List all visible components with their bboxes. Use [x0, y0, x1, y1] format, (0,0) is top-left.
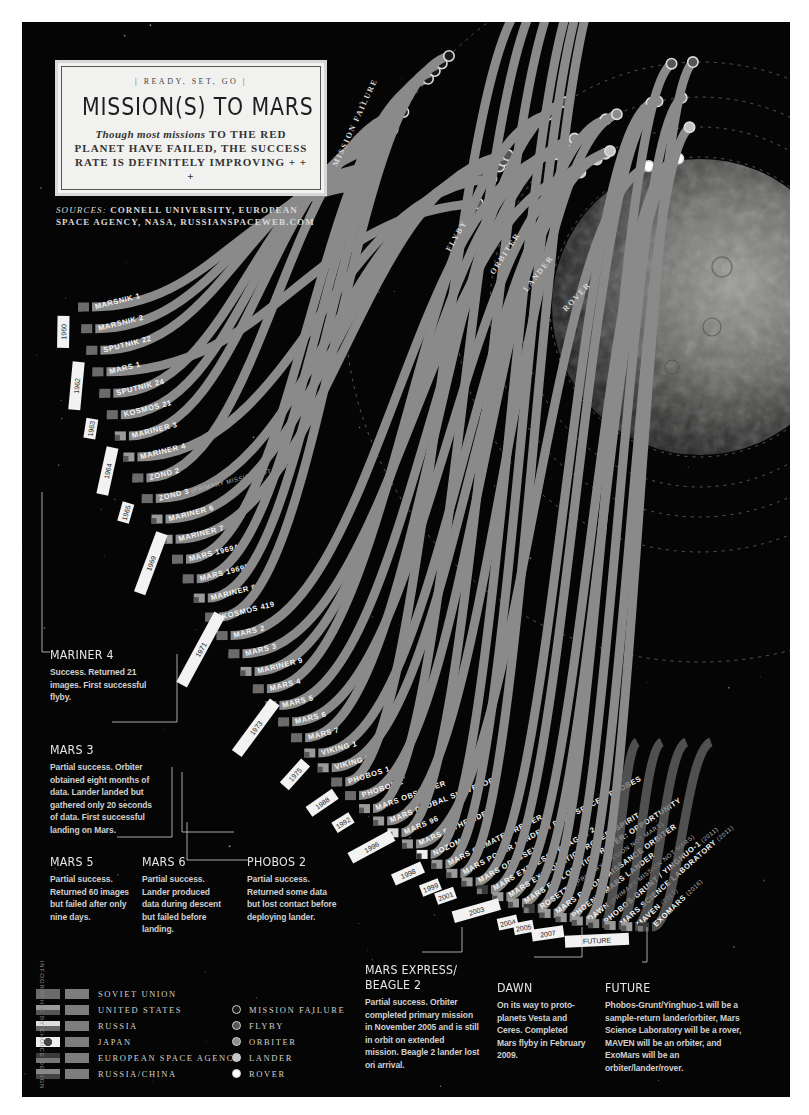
agency-flag-soviet [183, 574, 194, 583]
note-future: FUTUREPhobos-Grunt/Yinghuo-1 will be a s… [605, 980, 755, 1074]
agency-flag-soviet [92, 367, 103, 376]
year-tab: 2003 [452, 898, 501, 923]
agency-flag-us [556, 913, 567, 922]
band-swatch [65, 1037, 89, 1047]
subtitle: Though most missions TO THE RED PLANET H… [72, 127, 310, 183]
outcome-dot-flyby [688, 57, 698, 67]
year-tab: 1971 [176, 612, 225, 688]
mission-label: SPUTNIK 24 [115, 377, 165, 398]
legend-agency-soviet: SOVIET UNION [36, 986, 242, 1001]
note-mars-5: MARS 5Partial success. Returned 60 image… [50, 854, 130, 923]
agency-flag-esa [477, 885, 488, 894]
legend-agency-esa: EUROPEAN SPACE AGENCY [36, 1050, 242, 1065]
infographic-canvas: MARSNIK 1MARSNIK 2SPUTNIK 22MARS 1SPUTNI… [22, 22, 790, 1097]
agency-flag-soviet [331, 777, 342, 786]
svg-text:FUTURE: FUTURE [583, 936, 612, 944]
legend-agency-russia: RUSSIA [36, 1018, 242, 1033]
outcome-dot-icon [232, 1069, 241, 1078]
svg-text:1962: 1962 [73, 378, 81, 394]
agency-flag-us [123, 452, 134, 461]
agency-flag-soviet [107, 410, 118, 419]
agency-flag-us [462, 877, 473, 886]
agency-flag-soviet [228, 649, 239, 658]
agency-flag-us [152, 515, 163, 524]
agency-flag-us [540, 909, 551, 918]
band-swatch [65, 1021, 89, 1031]
note-mariner-4: MARINER 4Success. Returned 21 images. Fi… [50, 647, 150, 704]
agency-flag-us [373, 817, 384, 826]
outcome-dot-orbiter [612, 109, 622, 119]
year-tab: FUTURE [565, 933, 629, 948]
mission-label: MARS 6 [294, 710, 327, 726]
note-mars-3: MARS 3Partial success. Orbiter obtained … [50, 742, 155, 836]
agency-flag-us [304, 748, 315, 757]
agency-flag-us [115, 431, 126, 440]
mission-label: MARS 4 [269, 676, 302, 693]
agency-flag-us [318, 763, 329, 772]
agency-flag-soviet [78, 303, 89, 312]
outcome-dot-icon [232, 1053, 241, 1062]
legend-outcome-flyby: FLYBY [232, 1018, 345, 1033]
year-tab: 1988 [306, 789, 339, 817]
agency-flag-us [446, 869, 457, 878]
legend-agency-japan: JAPAN [36, 1034, 242, 1049]
year-tab: 1998 [391, 861, 425, 885]
legend-agency-russiachina: RUSSIA/CHINA [36, 1066, 242, 1081]
agency-flag-us [572, 916, 583, 925]
year-tab: 1996 [347, 830, 395, 863]
year-tab: 1973 [232, 698, 280, 757]
outcome-dot-failure [444, 51, 454, 61]
agency-flag-us [359, 804, 370, 813]
agency-flag-soviet [86, 346, 97, 355]
legend-outcome-orbiter: ORBITER [232, 1034, 345, 1049]
agency-flag-soviet [99, 389, 110, 398]
mission-label: ZOND 2 [148, 466, 180, 482]
year-tab: 1992 [331, 812, 354, 833]
agency-flag-soviet [132, 473, 143, 482]
outcome-dot-icon [232, 1037, 241, 1046]
agency-flag-soviet [345, 791, 356, 800]
agency-flag-soviet [253, 684, 264, 693]
mission-label: MARINER 3 [131, 420, 178, 440]
year-tab: 1960 [57, 316, 69, 348]
agency-flag-us [402, 839, 413, 848]
note-mars-6: MARS 6Partial success. Lander produced d… [142, 854, 227, 936]
svg-text:1960: 1960 [60, 324, 67, 340]
agency-flag-soviet [291, 733, 302, 742]
outcome-dot-flyby [666, 58, 676, 68]
mission-label: KOSMOS 21 [123, 398, 173, 419]
year-tab: 1965 [117, 501, 134, 524]
page-title: MISSION(S) TO MARS [82, 92, 300, 121]
mission-label: VIKING 1 [320, 739, 358, 757]
agency-flag-soviet [172, 555, 183, 564]
title-card: | READY, SET, GO | MISSION(S) TO MARS Th… [55, 60, 327, 196]
agency-flag-us [605, 921, 616, 930]
agency-legend: SOVIET UNIONUNITED STATESRUSSIAJAPANEURO… [36, 986, 242, 1082]
agency-flag-soviet [81, 324, 92, 333]
band-swatch [65, 1053, 89, 1063]
agency-flag-soviet [217, 631, 228, 640]
legend-outcome-rover: ROVER [232, 1066, 345, 1081]
band-swatch [65, 1005, 89, 1015]
note-phobos-2: PHOBOS 2Partial success. Returned some d… [247, 854, 337, 923]
year-tab: 1969 [134, 531, 168, 595]
agency-flag-us [508, 898, 519, 907]
year-tab: 1975 [280, 759, 310, 791]
year-tab: 1964 [96, 446, 118, 495]
mission-label: MARS 5 [281, 693, 314, 709]
agency-flag-esa [524, 904, 535, 913]
agency-flag-soviet [142, 494, 153, 503]
agency-flag-us [241, 667, 252, 676]
outcome-dot-icon [232, 1005, 241, 1014]
legend-outcome-failure: MISSION FAILURE [232, 1002, 345, 1017]
kicker: | READY, SET, GO | [58, 77, 324, 86]
agency-flag-us [621, 922, 632, 931]
outcome-dot-lander [684, 122, 694, 132]
agency-flag-russiachina [588, 919, 599, 928]
agency-flag-us [194, 594, 205, 603]
note-dawn: DAWNOn its way to proto-planets Vesta an… [497, 980, 587, 1062]
band-swatch [65, 1069, 89, 1079]
note-mars-express: MARS EXPRESS/ BEAGLE 2Partial success. O… [365, 962, 480, 1071]
sources-credit: SOURCES: CORNELL UNIVERSITY, EUROPEAN SP… [56, 205, 316, 228]
band-swatch [65, 989, 89, 999]
